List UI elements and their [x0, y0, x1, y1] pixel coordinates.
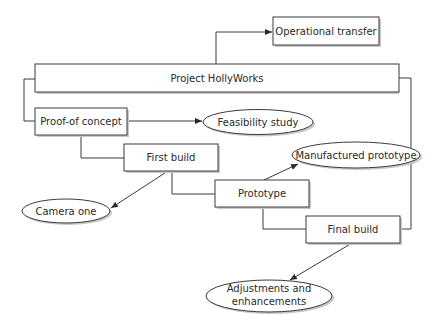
node-project-hollyworks[interactable]: Project HollyWorks — [35, 64, 399, 94]
camera-one-label: Camera one — [35, 206, 96, 217]
first-build-label: First build — [147, 152, 196, 163]
edge-first-build-to-prototype — [172, 171, 215, 194]
adjustments-label-line2: enhancements — [232, 296, 306, 307]
final-build-label: Final build — [328, 224, 379, 235]
edge-final-build-to-adjustments — [290, 243, 352, 280]
edge-prototype-to-manufactured-prototype — [264, 164, 298, 180]
node-final-build[interactable]: Final build — [306, 216, 402, 245]
project-hollyworks-label: Project HollyWorks — [170, 73, 263, 84]
feasibility-study-label: Feasibility study — [218, 117, 299, 128]
node-adjustments-and-enhancements[interactable]: Adjustments and enhancements — [206, 280, 334, 314]
edge-prototype-to-final-build — [263, 207, 306, 229]
edge-proof-of-concept-to-first-build — [81, 135, 124, 158]
project-hollyworks-diagram: Operational transfer Project HollyWorks … — [0, 0, 442, 327]
node-first-build[interactable]: First build — [124, 144, 220, 173]
node-feasibility-study[interactable]: Feasibility study — [203, 110, 315, 137]
edge-first-build-to-camera-one — [111, 171, 168, 208]
node-proof-of-concept[interactable]: Proof-of concept — [35, 108, 129, 137]
prototype-label: Prototype — [238, 188, 286, 199]
node-operational-transfer[interactable]: Operational transfer — [273, 17, 381, 47]
edge-project-to-operational-transfer — [216, 32, 272, 64]
adjustments-label-line1: Adjustments and — [227, 283, 312, 294]
manufactured-prototype-label: Manufactured prototype — [295, 150, 416, 161]
node-manufactured-prototype[interactable]: Manufactured prototype — [292, 142, 422, 170]
edge-project-to-proof-of-concept — [24, 79, 35, 121]
node-camera-one[interactable]: Camera one — [22, 199, 112, 225]
node-prototype[interactable]: Prototype — [215, 180, 311, 209]
proof-of-concept-label: Proof-of concept — [40, 116, 122, 127]
operational-transfer-label: Operational transfer — [275, 26, 377, 37]
